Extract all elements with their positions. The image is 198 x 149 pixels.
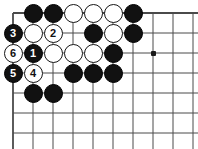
stone-white (84, 44, 103, 63)
move-number-label: 2 (50, 28, 56, 39)
star-point (151, 51, 156, 56)
stone-black (64, 64, 83, 83)
stone-black (24, 4, 43, 23)
stone-black (124, 4, 143, 23)
numbered-stone-3: 3 (4, 24, 23, 43)
stone-white (104, 4, 123, 23)
move-number-label: 4 (30, 68, 36, 79)
stone-white (64, 4, 83, 23)
numbered-stone-1: 1 (24, 44, 43, 63)
stone-white (44, 44, 63, 63)
stone-black (44, 84, 63, 103)
stone-black (124, 24, 143, 43)
move-number-label: 5 (10, 68, 16, 79)
stone-white (104, 24, 123, 43)
move-number-label: 6 (10, 48, 16, 59)
stone-white (24, 24, 43, 43)
stone-black (44, 4, 63, 23)
stone-black (84, 24, 103, 43)
stone-white (64, 44, 83, 63)
numbered-stone-6: 6 (4, 44, 23, 63)
stone-white (84, 4, 103, 23)
numbered-stone-5: 5 (4, 64, 23, 83)
move-number-label: 1 (30, 48, 36, 59)
move-number-label: 3 (10, 28, 16, 39)
numbered-stone-2: 2 (44, 24, 63, 43)
stone-black (104, 64, 123, 83)
stone-black (84, 64, 103, 83)
numbered-stone-4: 4 (24, 64, 43, 83)
stone-black (104, 44, 123, 63)
stone-black (24, 84, 43, 103)
go-board-diagram: 326154 (0, 0, 198, 149)
